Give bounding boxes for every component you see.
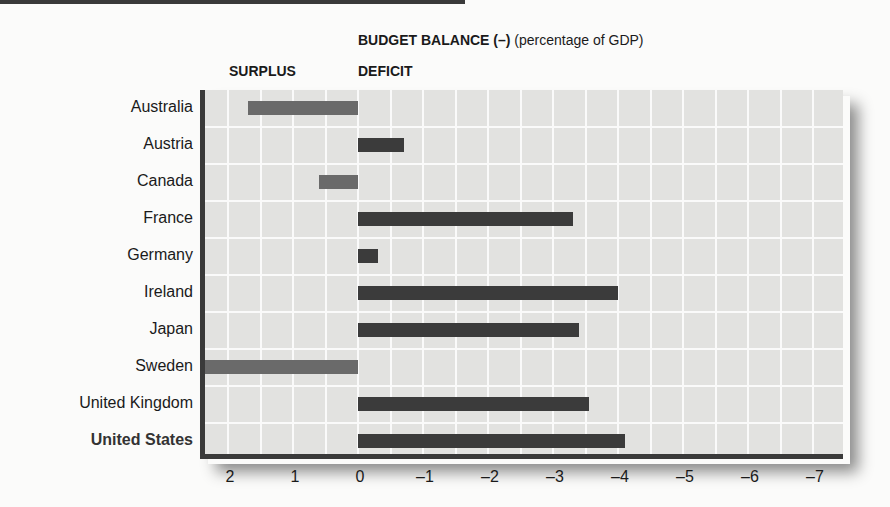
gridline-vertical — [292, 90, 294, 454]
gridline-vertical — [650, 90, 652, 454]
bar-france — [358, 212, 573, 226]
x-tick-label: –2 — [470, 468, 510, 486]
gridline-horizontal — [205, 422, 843, 424]
bar-united-states — [358, 434, 625, 448]
x-tick-label: –7 — [795, 468, 835, 486]
gridline-vertical — [715, 90, 717, 454]
bar-canada — [319, 175, 358, 189]
category-label: Austria — [143, 135, 193, 153]
x-tick-label: –5 — [665, 468, 705, 486]
gridline-horizontal — [205, 274, 843, 276]
category-label: Sweden — [135, 357, 193, 375]
gridline-horizontal — [205, 311, 843, 313]
category-label: Japan — [149, 320, 193, 338]
x-tick-label: –6 — [730, 468, 770, 486]
x-tick-label: 1 — [275, 468, 315, 486]
category-label: United States — [91, 431, 193, 449]
chart-title-bold: BUDGET BALANCE (–) — [358, 32, 510, 48]
gridline-horizontal — [205, 237, 843, 239]
category-label: Germany — [127, 246, 193, 264]
x-tick-label: –1 — [405, 468, 445, 486]
gridline-horizontal — [205, 126, 843, 128]
gridline-vertical — [747, 90, 749, 454]
gridline-vertical — [812, 90, 814, 454]
gridline-vertical — [682, 90, 684, 454]
bar-united-kingdom — [358, 397, 589, 411]
top-rule — [0, 0, 465, 4]
bar-austria — [358, 138, 404, 152]
bar-australia — [248, 101, 359, 115]
category-label: France — [143, 209, 193, 227]
bar-ireland — [358, 286, 618, 300]
deficit-label: DEFICIT — [358, 63, 412, 79]
gridline-horizontal — [205, 163, 843, 165]
plot-area — [200, 90, 843, 459]
gridline-vertical — [780, 90, 782, 454]
chart-title-units: (percentage of GDP) — [510, 32, 643, 48]
gridline-horizontal — [205, 200, 843, 202]
x-tick-label: –3 — [535, 468, 575, 486]
gridline-horizontal — [205, 385, 843, 387]
bar-japan — [358, 323, 579, 337]
category-label: Canada — [137, 172, 193, 190]
gridline-horizontal — [205, 348, 843, 350]
x-tick-label: 0 — [340, 468, 380, 486]
gridline-vertical — [227, 90, 229, 454]
gridline-vertical — [260, 90, 262, 454]
category-label: Ireland — [144, 283, 193, 301]
gridline-vertical — [617, 90, 619, 454]
category-label: Australia — [131, 98, 193, 116]
bar-sweden — [205, 360, 358, 374]
chart-title: BUDGET BALANCE (–) (percentage of GDP) — [358, 32, 644, 48]
surplus-label: SURPLUS — [229, 63, 296, 79]
bar-germany — [358, 249, 378, 263]
x-tick-label: –4 — [600, 468, 640, 486]
category-label: United Kingdom — [79, 394, 193, 412]
gridline-vertical — [325, 90, 327, 454]
x-tick-label: 2 — [210, 468, 250, 486]
